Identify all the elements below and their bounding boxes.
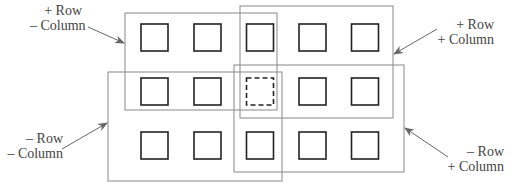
- region-minus-row-minus-column: [108, 72, 282, 181]
- grid-cell: [352, 24, 379, 51]
- grid-cell: [247, 24, 274, 51]
- grid-row-3: [141, 132, 379, 159]
- grid-cell: [352, 132, 379, 159]
- arrow-minus-row-minus-column: [62, 123, 107, 149]
- label-minus-row-minus-column: – Row – Column: [6, 131, 63, 161]
- arrow-minus-row-plus-column: [405, 128, 448, 157]
- grid-cell: [247, 132, 274, 159]
- grid-cell: [194, 132, 221, 159]
- label-line: + Column: [446, 159, 504, 174]
- arrow-plus-row-minus-column: [88, 27, 124, 43]
- grid-cell: [194, 78, 221, 105]
- grid-cell: [299, 132, 326, 159]
- grid-cell: [141, 78, 168, 105]
- grid-cell-highlighted-dashed: [247, 78, 274, 105]
- arrow-plus-row-plus-column: [394, 29, 437, 54]
- grid-cell: [299, 24, 326, 51]
- grid-cell: [141, 132, 168, 159]
- region-plus-row-plus-column: [240, 6, 393, 118]
- grid-cell: [141, 24, 168, 51]
- label-minus-row-plus-column: – Row + Column: [446, 144, 504, 174]
- label-line: + Row: [30, 3, 82, 18]
- label-line: – Column: [6, 146, 63, 161]
- label-line: + Column: [436, 32, 494, 47]
- label-line: – Column: [30, 18, 82, 33]
- grid-cell: [299, 78, 326, 105]
- grid-cell: [352, 78, 379, 105]
- label-line: – Row: [446, 144, 504, 159]
- grid-row-2: [141, 78, 379, 105]
- region-plus-row-minus-column: [125, 13, 277, 110]
- label-line: – Row: [6, 131, 63, 146]
- grid-cell: [194, 24, 221, 51]
- label-plus-row-plus-column: + Row + Column: [436, 17, 494, 47]
- grid-row-1: [141, 24, 379, 51]
- label-plus-row-minus-column: + Row – Column: [30, 3, 82, 33]
- label-line: + Row: [436, 17, 494, 32]
